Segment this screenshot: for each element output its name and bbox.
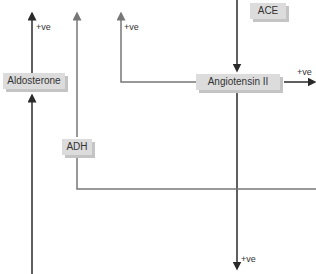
aldosterone-node: Aldosterone	[3, 73, 65, 89]
down-positive-label: +ve	[241, 254, 256, 264]
adh-node: ADH	[62, 139, 92, 155]
right-positive-label: +ve	[297, 67, 312, 77]
adh-horizontal-line	[77, 158, 316, 189]
ace-node: ACE	[250, 3, 286, 19]
diagram-connectors	[0, 0, 316, 274]
aldosterone-positive-label: +ve	[36, 22, 51, 32]
angiotensin-ii-node: Angiotensin II	[196, 74, 280, 90]
branch-positive-label: +ve	[124, 22, 139, 32]
